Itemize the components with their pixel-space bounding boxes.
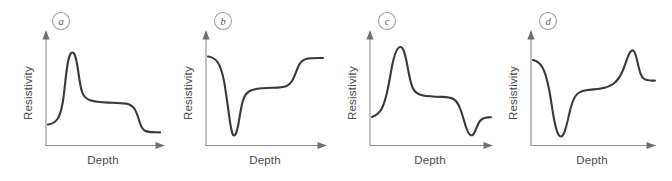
y-axis-arrow-a [42, 30, 49, 40]
panel-tag-text-c: c [385, 16, 390, 27]
resistivity-curve-d [533, 50, 655, 136]
x-axis-arrow-d [647, 142, 657, 149]
x-axis-label-d: Depth [576, 154, 608, 166]
x-axis-arrow-b [318, 142, 328, 149]
panel-tag-b: b [215, 13, 232, 30]
x-axis-label-a: Depth [87, 154, 119, 166]
panel-tag-c: c [379, 13, 396, 30]
y-axis-label-c: Resistivity [346, 66, 358, 120]
x-axis-arrow-c [484, 142, 494, 149]
panel-tag-d: d [540, 13, 557, 30]
y-axis-label-d: Resistivity [507, 66, 519, 120]
panel-c: Resistivity Depth c [334, 0, 502, 181]
panel-a: Resistivity Depth a [0, 0, 168, 181]
resistivity-curve-b [208, 57, 323, 136]
resistivity-depth-figure: Resistivity Depth a Resistivity Depth b [0, 0, 672, 181]
y-axis-label-b: Resistivity [182, 66, 194, 120]
panel-tag-text-b: b [220, 16, 225, 27]
y-axis-arrow-d [527, 30, 534, 40]
panel-b: Resistivity Depth b [162, 0, 330, 181]
panel-tag-text-d: d [545, 16, 551, 27]
y-axis-label-a: Resistivity [22, 66, 34, 120]
panel-tag-text-a: a [58, 16, 63, 27]
resistivity-curve-a [48, 53, 160, 133]
axes-group-b [202, 30, 327, 149]
x-axis-label-b: Depth [249, 154, 281, 166]
y-axis-arrow-b [202, 30, 209, 40]
y-axis-arrow-c [366, 30, 373, 40]
panel-d: Resistivity Depth d [504, 0, 672, 181]
x-axis-label-c: Depth [414, 154, 446, 166]
resistivity-curve-c [372, 47, 491, 135]
panel-tag-a: a [53, 13, 70, 30]
